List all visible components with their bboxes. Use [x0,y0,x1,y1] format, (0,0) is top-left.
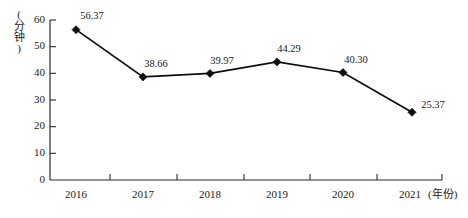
x-tick-label-2020: 2020 [332,188,355,200]
data-point-2021 [408,108,416,116]
data-point-2018 [206,69,214,77]
x-axis-tick-labels: 2016 2017 2018 2019 2020 2021 [65,188,421,200]
y-tick-label-30: 30 [34,93,46,105]
data-label-2021: 25.37 [421,99,445,110]
y-tick-label-10: 10 [34,146,46,158]
y-axis-tick-labels: 60 50 40 30 20 10 0 [34,13,46,185]
y-axis-ticks [50,20,56,153]
x-tick-label-2016: 2016 [65,188,88,200]
y-tick-label-0: 0 [40,173,46,185]
x-axis-group: 2016 2017 2018 2019 2020 2021 (年份) [50,174,458,201]
data-label-2016: 56.37 [80,10,104,21]
series-line-path [76,30,412,113]
x-tick-label-2017: 2017 [132,188,155,200]
x-axis-title: (年份) [428,187,458,201]
y-axis-group: 60 50 40 30 20 10 0 [34,13,56,185]
data-point-2020 [339,69,347,77]
data-point-2019 [273,58,281,66]
x-tick-label-2018: 2018 [199,188,222,200]
data-label-2019: 44.29 [277,43,301,54]
data-label-2018: 39.97 [210,55,234,66]
y-tick-label-40: 40 [34,66,46,78]
data-label-2020: 40.30 [344,54,368,65]
y-tick-label-50: 50 [34,39,46,51]
y-tick-label-60: 60 [34,13,46,25]
series-group: 56.37 38.66 39.97 44.29 40.30 25.37 [72,10,445,116]
line-chart-figure: (分钟) 60 50 40 30 20 10 0 [0,0,468,218]
data-label-2017: 38.66 [144,58,168,69]
chart-canvas: 60 50 40 30 20 10 0 2016 2017 [0,0,468,218]
y-tick-label-20: 20 [34,119,46,131]
x-axis-ticks [110,174,442,180]
x-tick-label-2019: 2019 [266,188,289,200]
x-tick-label-2021: 2021 [399,188,421,200]
data-point-labels: 56.37 38.66 39.97 44.29 40.30 25.37 [80,10,445,110]
series-markers [72,26,416,117]
